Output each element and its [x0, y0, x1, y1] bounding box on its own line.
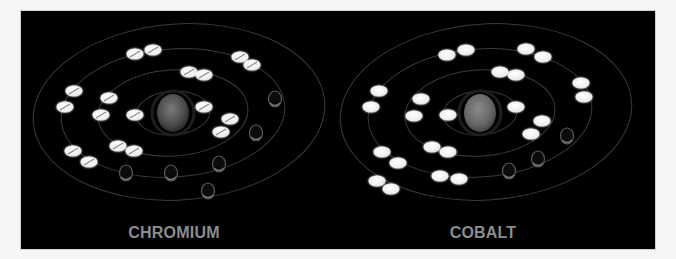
atom-cobalt [334, 14, 638, 210]
electron [93, 110, 110, 121]
empty-electron-slot [503, 163, 516, 179]
electron [57, 102, 74, 113]
electron [222, 114, 239, 125]
empty-electron-slot [269, 91, 282, 107]
electron [66, 86, 83, 97]
electron [101, 93, 118, 104]
electron [145, 45, 162, 56]
electron [244, 60, 261, 71]
electron [439, 50, 456, 61]
electron [508, 102, 525, 113]
empty-electron-slot [202, 183, 215, 199]
electron [363, 102, 380, 113]
electron [508, 70, 525, 81]
electron [369, 176, 386, 187]
electron [440, 110, 457, 121]
electron [576, 92, 593, 103]
electron [413, 94, 430, 105]
electron [196, 102, 213, 113]
nucleus [464, 94, 496, 132]
electron [127, 110, 144, 121]
atom-diagram-panel: CHROMIUM COBALT [20, 10, 656, 250]
electron [126, 146, 143, 157]
electron [523, 129, 540, 140]
electron [573, 78, 590, 89]
electron [196, 70, 213, 81]
electron [127, 49, 144, 60]
electron [374, 147, 391, 158]
electron [390, 158, 407, 169]
figure-page: CHROMIUM COBALT [0, 0, 676, 259]
atom-diagram-canvas [21, 11, 657, 251]
electron [213, 127, 230, 138]
electron [232, 52, 249, 63]
electron [492, 67, 509, 78]
empty-electron-slot [165, 165, 178, 181]
empty-electron-slot [213, 156, 226, 172]
electron [406, 111, 423, 122]
electron [535, 52, 552, 63]
electron [432, 171, 449, 182]
electron [181, 67, 198, 78]
electron [534, 116, 551, 127]
nucleus [157, 94, 189, 132]
electron [518, 44, 535, 55]
empty-electron-slot [561, 128, 574, 144]
electron [81, 157, 98, 168]
atom-label-cobalt: COBALT [450, 224, 517, 242]
electron [440, 147, 457, 158]
atom-label-chromium: CHROMIUM [128, 224, 219, 242]
electron [458, 45, 475, 56]
electron [371, 86, 388, 97]
atom-chromium [27, 14, 331, 210]
empty-electron-slot [532, 151, 545, 167]
electron [65, 146, 82, 157]
electron [383, 184, 400, 195]
electron [451, 174, 468, 185]
electron [110, 141, 127, 152]
empty-electron-slot [250, 125, 263, 141]
empty-electron-slot [120, 165, 133, 181]
electron [424, 142, 441, 153]
